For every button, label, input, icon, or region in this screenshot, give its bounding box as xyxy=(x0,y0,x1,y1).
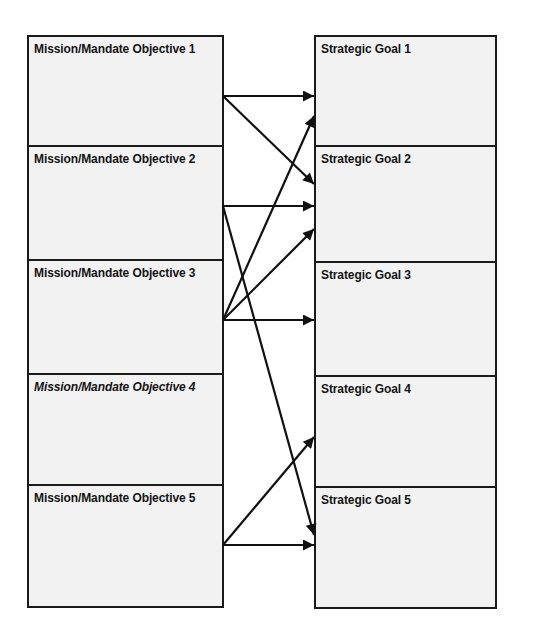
arrow-o3-g1 xyxy=(223,116,314,320)
goal-label-4: Strategic Goal 4 xyxy=(321,382,411,396)
goal-label-5: Strategic Goal 5 xyxy=(321,493,411,507)
goal-box-3: Strategic Goal 3 xyxy=(316,261,495,376)
objective-box-2: Mission/Mandate Objective 2 xyxy=(29,145,222,260)
objective-label-4: Mission/Mandate Objective 4 xyxy=(34,380,195,394)
arrow-o3-g2 xyxy=(223,229,314,320)
arrow-o5-g4 xyxy=(223,437,314,545)
goal-label-3: Strategic Goal 3 xyxy=(321,268,411,282)
objective-label-2: Mission/Mandate Objective 2 xyxy=(34,152,195,166)
arrow-o1-g2 xyxy=(223,96,314,184)
objective-box-1: Mission/Mandate Objective 1 xyxy=(29,37,222,147)
mission-objectives-column: Mission/Mandate Objective 1 Mission/Mand… xyxy=(27,35,224,608)
objective-label-3: Mission/Mandate Objective 3 xyxy=(34,266,195,280)
objective-label-1: Mission/Mandate Objective 1 xyxy=(34,42,195,56)
objective-box-3: Mission/Mandate Objective 3 xyxy=(29,259,222,374)
goal-box-5: Strategic Goal 5 xyxy=(316,486,495,607)
strategic-goals-column: Strategic Goal 1 Strategic Goal 2 Strate… xyxy=(314,35,497,609)
objective-box-5: Mission/Mandate Objective 5 xyxy=(29,484,222,606)
goal-box-4: Strategic Goal 4 xyxy=(316,375,495,487)
goal-box-1: Strategic Goal 1 xyxy=(316,37,495,147)
goal-label-2: Strategic Goal 2 xyxy=(321,152,411,166)
goal-label-1: Strategic Goal 1 xyxy=(321,42,411,56)
arrow-o2-g5 xyxy=(223,206,314,535)
goal-box-2: Strategic Goal 2 xyxy=(316,145,495,262)
objective-box-4: Mission/Mandate Objective 4 xyxy=(29,373,222,485)
objective-label-5: Mission/Mandate Objective 5 xyxy=(34,491,195,505)
